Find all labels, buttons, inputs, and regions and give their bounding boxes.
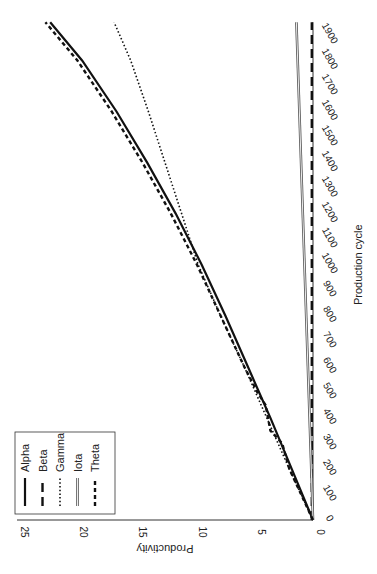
legend-label-gamma: Gamma [54,432,66,472]
x-tick-label: 900 [321,279,339,299]
x-tick-label: 800 [321,304,339,324]
legend-label-alpha: Alpha [19,443,31,472]
legend: AlphaBetaGammaIotaTheta [15,432,115,514]
x-tick-label: 700 [321,330,339,350]
x-tick-label: 1100 [320,225,340,250]
x-tick-label: 1300 [320,174,341,199]
x-tick-label: 1400 [320,148,341,173]
x-tick-label: 400 [321,406,339,426]
line-chart: 0100200300400500600700800900100011001200… [0,0,377,574]
legend-label-iota: Iota [72,453,84,472]
x-axis-title: Production cycle [352,224,364,305]
x-tick-label: 1500 [320,123,341,148]
x-tick-label: 0 [324,513,337,524]
x-tick-label: 1600 [320,97,341,122]
y-tick-label: 20 [78,526,89,538]
x-tick-label: 1200 [320,200,341,225]
x-tick-label: 1800 [320,46,341,71]
y-tick-label: 5 [256,529,267,535]
x-tick-label: 600 [321,355,339,375]
x-tick-label: 1000 [320,251,341,276]
x-tick-label: 1900 [320,21,341,46]
legend-label-beta: Beta [37,448,49,472]
x-tick-label: 1700 [320,72,341,97]
y-tick-label: 25 [19,526,30,538]
legend-label-theta: Theta [89,443,101,472]
x-tick-label: 300 [321,432,339,452]
x-tick-label: 500 [321,381,339,401]
y-tick-label: 10 [197,526,208,538]
x-tick-label: 200 [321,457,339,477]
x-tick-label: 100 [321,483,339,503]
y-axis-title: Productivity [136,543,193,555]
y-tick-label: 15 [137,526,148,538]
y-tick-label: 0 [315,529,326,535]
